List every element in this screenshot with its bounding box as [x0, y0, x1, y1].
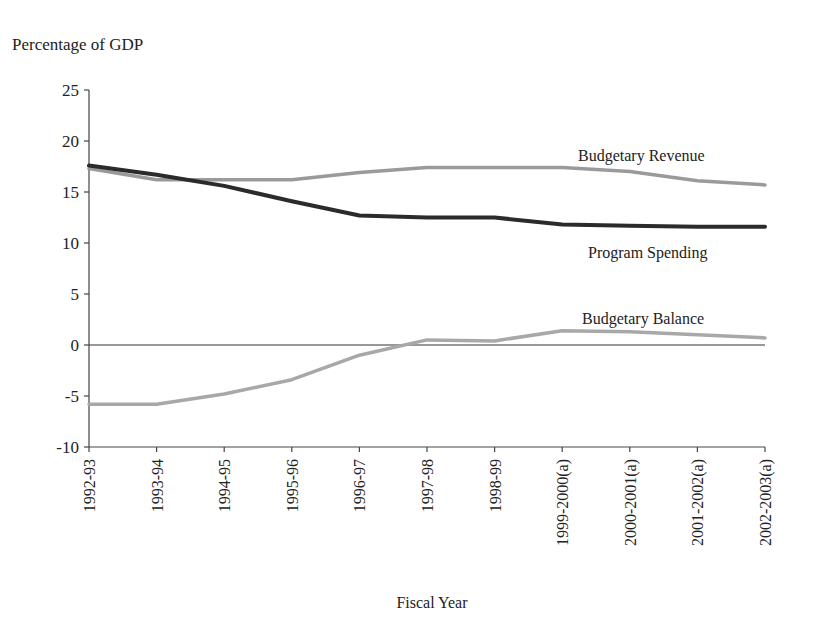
- y-axis-label: Percentage of GDP: [12, 35, 143, 54]
- y-tick-label: 15: [62, 183, 79, 202]
- x-tick-label: 2001-2002(a): [689, 459, 707, 546]
- y-tick-label: 0: [71, 336, 80, 355]
- label-budgetary-balance: Budgetary Balance: [582, 310, 704, 328]
- label-program-spending: Program Spending: [588, 244, 708, 262]
- x-tick-label: 1996-97: [351, 459, 368, 512]
- series-lines: [89, 166, 765, 405]
- x-tick-label: 2000-2001(a): [622, 459, 640, 546]
- x-tick-label: 1994-95: [216, 459, 233, 512]
- x-tick-label: 1992-93: [81, 459, 98, 512]
- line-chart: Percentage of GDP 2520151050-5-101992-93…: [0, 0, 816, 637]
- x-tick-label: 1997-98: [419, 459, 436, 512]
- x-tick-label: 1993-94: [149, 459, 166, 512]
- x-axis-label: Fiscal Year: [396, 594, 468, 611]
- y-tick-label: -5: [65, 387, 79, 406]
- label-budgetary-revenue: Budgetary Revenue: [578, 147, 705, 165]
- x-tick-label: 2002-2003(a): [757, 459, 775, 546]
- y-tick-label: 20: [62, 132, 79, 151]
- y-tick-label: 10: [62, 234, 79, 253]
- x-tick-label: 1995-96: [284, 459, 301, 512]
- y-tick-label: 5: [71, 285, 80, 304]
- y-tick-label: 25: [62, 81, 79, 100]
- y-tick-label: -10: [56, 438, 79, 457]
- x-tick-label: 1999-2000(a): [554, 459, 572, 546]
- x-tick-label: 1998-99: [487, 459, 504, 512]
- series-budgetary-balance: [89, 331, 765, 405]
